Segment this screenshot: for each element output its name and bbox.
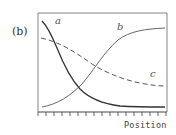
panel-label: (b) — [12, 25, 28, 38]
curve-label-c: c — [150, 68, 156, 79]
curve-label-b: b — [117, 21, 123, 32]
curve-label-a: a — [55, 15, 61, 26]
x-axis-label-text: Position — [124, 120, 167, 130]
plot-frame — [38, 13, 167, 112]
arrow-right-icon: → — [124, 132, 128, 135]
series-a-line — [42, 21, 165, 107]
series-b-line — [42, 28, 165, 107]
x-axis-ticks — [38, 112, 166, 116]
series-c-line — [41, 38, 165, 86]
x-axis-label: Position → — [124, 120, 176, 135]
